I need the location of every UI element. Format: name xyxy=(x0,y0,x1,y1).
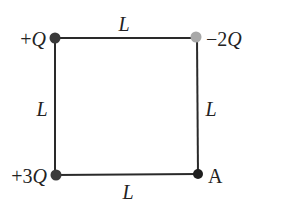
side-right xyxy=(197,38,198,175)
label-point-a: A xyxy=(208,165,223,187)
point-a xyxy=(193,169,203,179)
label-side-bottom: L xyxy=(121,181,133,201)
charge-top-left xyxy=(50,33,61,44)
label-side-top: L xyxy=(117,13,129,35)
charge-square-diagram: L L L L +Q −2Q +3Q A xyxy=(0,0,287,201)
charge-top-right xyxy=(191,32,202,43)
label-side-right: L xyxy=(204,98,216,120)
label-charge-top-right: −2Q xyxy=(206,28,242,50)
charge-bottom-left xyxy=(51,170,62,181)
label-charge-top-left: +Q xyxy=(20,28,46,50)
label-side-left: L xyxy=(35,98,47,120)
side-bottom xyxy=(55,174,198,175)
label-charge-bottom-left: +3Q xyxy=(11,165,47,187)
